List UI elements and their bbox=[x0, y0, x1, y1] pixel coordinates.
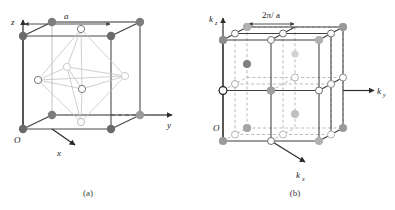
panel-b-hidden-edges bbox=[223, 27, 343, 141]
site-filled bbox=[219, 36, 227, 44]
site-open bbox=[34, 76, 41, 83]
site-open bbox=[232, 30, 239, 37]
panel-b-axis-kx-letter: k bbox=[296, 170, 301, 180]
panel-b-axis-kx-subscript: x bbox=[301, 176, 305, 182]
panel-b-origin-label: O bbox=[213, 123, 220, 133]
site-open bbox=[316, 87, 323, 94]
site-filled bbox=[136, 18, 144, 26]
panel-a-origin-label: O bbox=[14, 135, 21, 145]
site-open bbox=[328, 131, 335, 138]
site-filled bbox=[19, 32, 27, 40]
site-open bbox=[328, 30, 335, 37]
panel-a-axis-y-label: y bbox=[166, 120, 171, 130]
panel-a-axis-x bbox=[52, 129, 75, 145]
panel-b-caption: (b) bbox=[290, 188, 301, 198]
site-filled bbox=[48, 111, 56, 119]
panel-a-octahedron bbox=[38, 29, 125, 122]
site-filled bbox=[107, 125, 115, 133]
site-open bbox=[280, 30, 287, 37]
crystal-lattice-figure: z y x O a bbox=[0, 0, 395, 210]
site-open bbox=[78, 85, 85, 92]
site-filled bbox=[243, 23, 251, 31]
panel-b: k z k y k x O bbox=[209, 10, 386, 198]
panel-b-axis-kx bbox=[271, 141, 305, 162]
panel-b-axis-kz-label: k z bbox=[209, 14, 218, 26]
panel-b-axis-ky-label: k y bbox=[377, 86, 386, 98]
site-filled bbox=[219, 137, 227, 145]
site-filled bbox=[267, 87, 275, 95]
panel-a-axis-x-label: x bbox=[56, 148, 61, 158]
site-open bbox=[232, 81, 239, 88]
panel-b-axis-kx-label: k x bbox=[296, 170, 305, 182]
panel-a-dimension-label: a bbox=[64, 11, 69, 21]
site-open bbox=[340, 74, 347, 81]
site-filled bbox=[136, 111, 144, 119]
site-open bbox=[77, 118, 84, 125]
site-filled bbox=[315, 137, 323, 145]
site-filled bbox=[291, 50, 298, 57]
site-filled bbox=[243, 124, 251, 132]
site-filled bbox=[243, 60, 251, 68]
site-filled bbox=[48, 18, 56, 26]
panel-b-dimension-label: 2π/ a bbox=[262, 10, 280, 20]
site-open bbox=[268, 138, 275, 145]
panel-a-axis-z-label: z bbox=[10, 17, 15, 27]
panel-b-axis-node bbox=[219, 87, 227, 95]
site-filled bbox=[339, 124, 347, 132]
panel-b-axis-kz-subscript: z bbox=[214, 20, 218, 26]
site-open bbox=[77, 25, 84, 32]
site-filled bbox=[19, 125, 27, 133]
panel-a: z y x O a bbox=[10, 11, 172, 198]
site-filled bbox=[339, 23, 347, 31]
panel-b-axis-ky-subscript: y bbox=[382, 92, 386, 98]
panel-b-axis-kz-letter: k bbox=[209, 14, 214, 24]
site-open bbox=[63, 63, 70, 70]
site-filled bbox=[315, 36, 323, 44]
site-open bbox=[280, 131, 287, 138]
panel-b-axis-ky-letter: k bbox=[377, 86, 382, 96]
site-filled bbox=[107, 32, 115, 40]
figure-root: z y x O a bbox=[0, 0, 395, 210]
site-open bbox=[121, 72, 128, 79]
site-filled bbox=[291, 110, 299, 118]
site-open bbox=[232, 131, 239, 138]
site-open bbox=[268, 37, 275, 44]
panel-a-caption: (a) bbox=[83, 188, 93, 198]
site-open bbox=[292, 74, 299, 81]
site-open bbox=[328, 81, 335, 88]
